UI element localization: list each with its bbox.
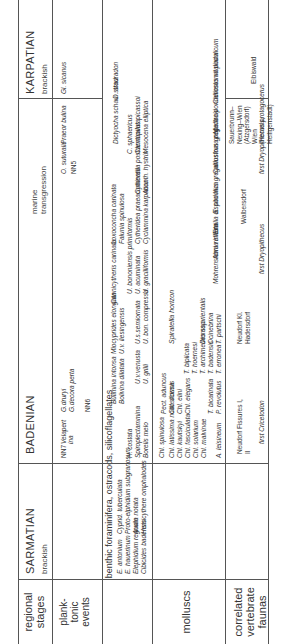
benthic-taxon: U. gracilliformis xyxy=(142,250,149,294)
row-label-planktonic: plank- tonic events xyxy=(58,582,91,642)
row-label-vertebrates: correlated vertebrate faunas xyxy=(232,582,268,642)
spiratella-horizon: Spiratella horizon xyxy=(168,290,175,344)
stratigraphic-chart: regional stages plank- tonic events bent… xyxy=(0,0,282,644)
benthic-taxon: Proto-elphidium subgranosum xyxy=(124,447,131,534)
benthic-taxon: Bulimina intonsa xyxy=(110,356,117,404)
benthic-taxon: Cyprid. tuberculata xyxy=(116,479,123,534)
mollusc-taxon: T. biplicata xyxy=(183,343,190,374)
vertebrate-event: first Dryopithecus xyxy=(258,224,265,274)
row-divider-molluscs xyxy=(225,0,226,644)
plankton-event: NN5 xyxy=(70,161,77,174)
row-divider-top xyxy=(18,0,19,644)
env-badenian: marine transgression xyxy=(30,144,48,214)
plankton-event: Velapert ina xyxy=(60,414,74,444)
mollusc-taxon: Chl. solarium xyxy=(192,420,199,458)
fauna-neudorf-fissures: Neudorf Fissures I, II xyxy=(236,394,251,454)
mollusc-taxon: Chl. elegans xyxy=(184,378,191,414)
vertebrate-event: first Dryopithecus protagocerus xyxy=(258,84,265,174)
stage-karpatian: KARPATIAN xyxy=(24,31,36,94)
mollusc-taxon: Chl. elini xyxy=(176,389,183,414)
mollusc-taxon: Dioma orientalis xyxy=(199,297,206,344)
mollusc-taxon: A. leisineum xyxy=(215,423,222,458)
mollusc-taxon: Chl. scissa xyxy=(168,383,175,414)
mollusc-taxon: T. partschi xyxy=(215,314,222,344)
benthic-taxon: H. costata xyxy=(126,429,133,458)
benthic-taxon: U.v. liesingensis xyxy=(118,308,125,354)
benthic-taxon: Cannicytheris carinata xyxy=(110,240,117,304)
benthic-taxon: U.s.semiornata xyxy=(134,300,141,344)
row-divider-stages xyxy=(52,0,53,644)
env-sarmatian: brackish xyxy=(40,544,49,574)
benthic-taxon: Loxoconcha carinata xyxy=(110,184,117,244)
fauna-walbersdorf: Walbersdorf xyxy=(240,189,248,224)
mollusc-taxon: P. revolutus xyxy=(215,381,222,414)
label-column-divider xyxy=(18,579,268,580)
plankton-event: Praeor bulina xyxy=(60,105,67,144)
mollusc-taxon: T. bicarinata xyxy=(207,379,214,414)
plankton-event: Gl. sicanus xyxy=(60,62,67,94)
mollusc-taxon: Ocinebrina xyxy=(207,313,214,344)
benthic-taxon: Borelis melo xyxy=(142,422,149,458)
stage-sarmatian: SARMATIAN xyxy=(24,508,36,574)
mollusc-taxon: Chl. kautskyi xyxy=(176,421,183,458)
boundary-badenian-karpatian xyxy=(18,98,102,99)
benthic-taxon: Falunia spinulosa xyxy=(118,193,125,244)
benthic-taxon: E. antonium xyxy=(116,539,123,574)
row-label-molluscs: molluscs xyxy=(180,582,192,642)
benthic-taxon: U. grilli xyxy=(142,364,149,384)
row-divider-planktonic xyxy=(102,0,103,644)
plankton-event: O. suturalis xyxy=(60,141,67,174)
benthic-taxon: U. bononiensis primiformis xyxy=(126,217,133,294)
fauna-eibiswald: Eibiswald xyxy=(250,57,258,84)
benthic-taxon: U. bon. compressa xyxy=(142,289,149,344)
plankton-event: G.decora perta xyxy=(68,369,75,412)
fauna-sauerbrunn: Sauerbrunn–Nexing–Wien (Atzgersdorf) Wie… xyxy=(228,102,273,144)
row-divider-bottom xyxy=(268,0,269,644)
benthic-taxon: Spiroplectammina xyxy=(134,406,141,458)
plankton-event: NN6 xyxy=(84,399,91,412)
vertebrate-event: first Cricetodon xyxy=(258,400,265,444)
stage-badenian: BADENIAN xyxy=(24,395,36,454)
mollusc-taxon: Chl. fasciculata xyxy=(184,414,191,458)
row-divider-benthic xyxy=(152,0,153,644)
benthic-taxon: Mesocena elliptica xyxy=(142,101,149,154)
mollusc-taxon: T. erronea xyxy=(215,345,222,374)
benthic-taxon: C. sphaericus xyxy=(126,114,133,154)
mollusc-taxon: Calliostoma podolicum xyxy=(212,39,219,104)
row-label-stages: regional stages xyxy=(22,582,46,642)
benthic-taxon: Aurila notata xyxy=(132,498,139,535)
benthic-taxon: E. hauerinum xyxy=(124,535,131,574)
mollusc-taxon: Chl. spinulosa xyxy=(158,417,165,458)
mollusc-taxon: T. badensis xyxy=(207,341,214,374)
benthic-taxon: U.v.venusta xyxy=(134,350,141,384)
benthic-taxon: Cannopilus picassoi xyxy=(134,96,141,154)
plankton-event: NN7 xyxy=(60,445,67,458)
benthic-taxon: D. stauradon xyxy=(112,62,119,99)
benthic-taxon: Bolivina dilatata xyxy=(118,358,125,404)
env-karpatian: brackish xyxy=(40,64,49,94)
row-label-benthic: benthic foraminifera, ostracods, silicof… xyxy=(104,384,114,584)
benthic-taxon: Hemicythere omphalodes xyxy=(140,460,147,534)
benthic-taxon: Acanth. hystrix xyxy=(142,151,149,194)
plankton-event: G.druryi xyxy=(60,389,67,412)
mollusc-taxon: Chl. malvinae xyxy=(200,419,207,458)
mollusc-taxon: T. hoernesi xyxy=(191,342,198,374)
benthic-taxon: U. acuminata xyxy=(134,256,141,294)
mollusc-taxon: Pect. aduncus xyxy=(160,373,167,414)
fauna-neudorf-hadersdorf: Neudorf Kl. Hadersdorf xyxy=(236,284,251,344)
